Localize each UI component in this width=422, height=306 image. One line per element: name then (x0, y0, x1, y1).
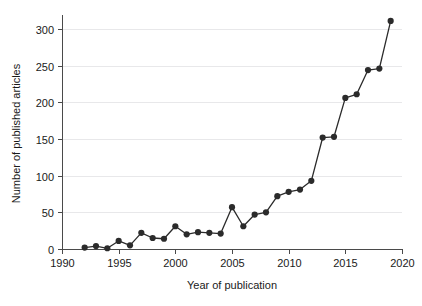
data-point-2012 (308, 178, 314, 184)
y-tick-label-250: 250 (36, 61, 54, 73)
data-point-1999 (161, 236, 167, 242)
data-point-1997 (138, 230, 144, 236)
data-point-2008 (263, 209, 269, 215)
y-tick-label-100: 100 (36, 171, 54, 183)
data-point-2010 (286, 189, 292, 195)
y-tick-label-0: 0 (48, 244, 54, 256)
data-series (82, 18, 394, 252)
data-point-2002 (195, 229, 201, 235)
data-point-2000 (172, 223, 178, 229)
data-point-1994 (104, 245, 110, 251)
y-tick-label-300: 300 (36, 24, 54, 36)
data-point-2017 (365, 67, 371, 73)
data-point-1998 (150, 235, 156, 241)
data-point-2005 (229, 204, 235, 210)
data-point-1996 (127, 242, 133, 248)
y-tick-label-50: 50 (42, 207, 54, 219)
data-point-2011 (297, 187, 303, 193)
x-axis-title: Year of publication (187, 279, 277, 291)
data-point-2007 (252, 211, 258, 217)
data-point-1993 (93, 243, 99, 249)
data-point-2016 (354, 91, 360, 97)
y-tick-label-200: 200 (36, 97, 54, 109)
x-tick-label-2020: 2020 (390, 257, 414, 269)
data-point-2014 (331, 134, 337, 140)
gridlines (62, 30, 402, 250)
data-point-1992 (82, 244, 88, 250)
chart-figure: 1990199520002005201020152020 05010015020… (0, 0, 422, 306)
x-tick-label-2015: 2015 (333, 257, 357, 269)
y-axis-ticks: 050100150200250300 (36, 24, 62, 256)
data-point-2009 (274, 193, 280, 199)
data-point-2019 (388, 18, 394, 24)
y-tick-label-150: 150 (36, 134, 54, 146)
series-polyline (85, 21, 391, 248)
data-point-2003 (206, 230, 212, 236)
x-tick-label-1995: 1995 (107, 257, 131, 269)
x-axis-ticks: 1990199520002005201020152020 (50, 249, 414, 269)
data-point-2004 (218, 231, 224, 237)
x-tick-label-2000: 2000 (163, 257, 187, 269)
y-axis-title: Number of published articles (10, 63, 22, 203)
axes (62, 15, 402, 250)
data-point-2013 (320, 134, 326, 140)
data-point-2001 (184, 231, 190, 237)
data-point-1995 (116, 238, 122, 244)
x-tick-label-2010: 2010 (277, 257, 301, 269)
data-point-2006 (240, 223, 246, 229)
data-point-2015 (342, 95, 348, 101)
x-tick-label-2005: 2005 (220, 257, 244, 269)
x-tick-label-1990: 1990 (50, 257, 74, 269)
line-chart-svg: 1990199520002005201020152020 05010015020… (0, 0, 422, 306)
data-point-2018 (376, 66, 382, 72)
